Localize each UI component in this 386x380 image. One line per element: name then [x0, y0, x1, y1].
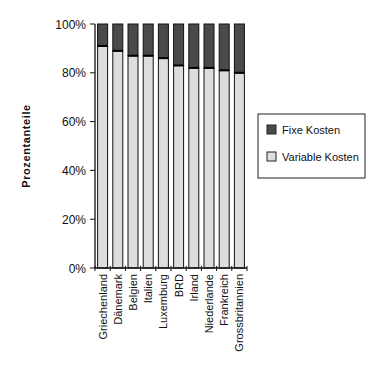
legend-label-variable-kosten: Variable Kosten: [282, 151, 359, 163]
bar-frankreich: [219, 24, 229, 268]
bar-segment-fixe-kosten: [143, 24, 153, 56]
bars-group: [98, 24, 245, 268]
y-tick-label: 60%: [62, 115, 86, 129]
x-category-label: Dänemark: [112, 274, 124, 325]
stacked-bar-chart: 0%20%40%60%80%100% GriechenlandDänemarkB…: [0, 0, 386, 380]
x-category-label: Frankreich: [218, 274, 230, 326]
bar-segment-fixe-kosten: [113, 24, 123, 51]
legend-swatch-variable-kosten: [267, 152, 276, 161]
bar-segment-variable-kosten: [204, 68, 214, 268]
x-axis: GriechenlandDänemarkBelgienItalienLuxemb…: [95, 266, 247, 352]
bar-segment-fixe-kosten: [174, 24, 184, 65]
bar-segment-fixe-kosten: [158, 24, 168, 58]
x-category-label: Niederlande: [203, 274, 215, 333]
bar-segment-variable-kosten: [189, 68, 199, 268]
x-category-label: Italien: [142, 274, 154, 303]
bar-griechenland: [98, 24, 108, 268]
bar-brd: [174, 24, 184, 268]
bar-segment-variable-kosten: [128, 56, 138, 268]
bar-segment-fixe-kosten: [204, 24, 214, 68]
bar-segment-variable-kosten: [143, 56, 153, 268]
bar-segment-variable-kosten: [234, 73, 244, 268]
bar-dänemark: [113, 24, 123, 268]
y-axis-label: Prozentanteile: [20, 104, 32, 188]
bar-segment-variable-kosten: [98, 46, 108, 268]
y-tick-label: 40%: [62, 164, 86, 178]
bar-segment-variable-kosten: [158, 58, 168, 268]
legend-label-fixe-kosten: Fixe Kosten: [282, 124, 340, 136]
bar-italien: [143, 24, 153, 268]
bar-segment-variable-kosten: [174, 65, 184, 268]
y-axis: 0%20%40%60%80%100%: [55, 18, 95, 276]
y-tick-label: 80%: [62, 66, 86, 80]
bar-segment-fixe-kosten: [234, 24, 244, 73]
bar-luxemburg: [158, 24, 168, 268]
y-tick-label: 20%: [62, 213, 86, 227]
bar-niederlande: [204, 24, 214, 268]
x-category-label: Grossbritannien: [233, 274, 245, 352]
bar-segment-fixe-kosten: [219, 24, 229, 70]
x-category-label: Irland: [188, 274, 200, 302]
bar-segment-variable-kosten: [113, 51, 123, 268]
legend-swatch-fixe-kosten: [267, 125, 276, 134]
y-tick-label: 100%: [55, 18, 86, 32]
x-category-label: BRD: [173, 274, 185, 297]
bar-segment-variable-kosten: [219, 70, 229, 268]
x-category-label: Luxemburg: [157, 274, 169, 329]
x-category-label: Griechenland: [97, 274, 109, 339]
x-category-label: Belgien: [127, 274, 139, 311]
bar-belgien: [128, 24, 138, 268]
bar-irland: [189, 24, 199, 268]
bar-grossbritannien: [234, 24, 244, 268]
legend: Fixe Kosten Variable Kosten: [258, 114, 365, 178]
y-tick-label: 0%: [69, 262, 87, 276]
bar-segment-fixe-kosten: [128, 24, 138, 56]
bar-segment-fixe-kosten: [189, 24, 199, 68]
bar-segment-fixe-kosten: [98, 24, 108, 46]
